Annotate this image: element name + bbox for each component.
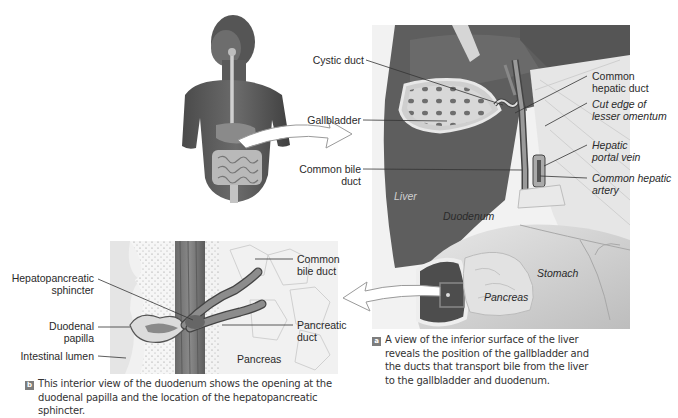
label-common-hepatic-duct-line2: hepatic duct xyxy=(592,82,649,94)
caption-a-line4: to the gallbladder and duodenum. xyxy=(372,374,672,388)
label-hepatic-portal-vein-line2: portal vein xyxy=(592,151,640,163)
caption-a-line2: reveals the position of the gallbladder … xyxy=(372,347,672,361)
caption-b-line1: This interior view of the duodenum shows… xyxy=(38,378,332,389)
label-duodenal-papilla-line2: papilla xyxy=(64,332,94,344)
caption-badge-a: a xyxy=(372,337,381,346)
label-liver: Liver xyxy=(394,190,417,202)
caption-panel-b: bThis interior view of the duodenum show… xyxy=(25,377,365,418)
label-cut-edge-line2: lesser omentum xyxy=(592,110,667,122)
label-hepatopancreatic-line1: Hepatopancreatic xyxy=(12,272,94,284)
label-common-hepatic-duct-line1: Common xyxy=(592,70,635,82)
label-hepatopancreatic-line2: sphincter xyxy=(51,284,94,296)
label-pancreas-a: Pancreas xyxy=(484,291,528,303)
caption-badge-b: b xyxy=(25,381,34,390)
label-common-bile-duct-line2: duct xyxy=(341,175,361,187)
label-pancreatic-duct-line2: duct xyxy=(297,331,317,343)
caption-b-line2: duodenal papilla and the location of the… xyxy=(25,391,365,418)
label-common-hepatic-artery-line2: artery xyxy=(592,184,619,196)
caption-a-line1: A view of the inferior surface of the li… xyxy=(385,334,578,345)
label-cut-edge-line1: Cut edge of xyxy=(592,98,646,110)
liver-panel xyxy=(363,25,630,329)
label-stomach: Stomach xyxy=(537,267,578,279)
label-pancreatic-duct-line1: Pancreatic xyxy=(297,319,347,331)
label-common-hepatic-artery-line1: Common hepatic xyxy=(592,172,671,184)
label-common-bile-duct-b-line1: Common xyxy=(297,253,340,265)
caption-a-line3: the ducts that transport bile from the l… xyxy=(372,360,672,374)
caption-panel-a: aA view of the inferior surface of the l… xyxy=(372,333,672,387)
label-common-bile-duct-b-line2: bile duct xyxy=(297,265,336,277)
label-hepatic-portal-vein-line1: Hepatic xyxy=(592,139,628,151)
label-gallbladder: Gallbladder xyxy=(307,114,361,126)
human-figure xyxy=(182,15,290,203)
label-cystic-duct: Cystic duct xyxy=(313,54,364,66)
label-intestinal-lumen: Intestinal lumen xyxy=(20,350,94,362)
label-duodenum: Duodenum xyxy=(443,210,494,222)
label-duodenal-papilla-line1: Duodenal xyxy=(49,320,94,332)
label-common-bile-duct-line1: Common bile xyxy=(299,163,361,175)
label-pancreas-b: Pancreas xyxy=(237,353,281,365)
